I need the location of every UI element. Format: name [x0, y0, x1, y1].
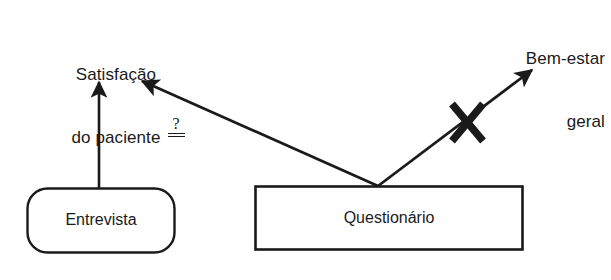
question-mark-glyph: ?	[163, 116, 189, 131]
outcome-label-satisfacao-line1: Satisfação	[46, 64, 186, 85]
node-label-entrevista[interactable]: Entrevista	[27, 210, 175, 230]
outcome-label-bem-estar-line2: geral	[455, 111, 605, 132]
path-diagram: Satisfação do paciente Bem-estar geral E…	[0, 0, 611, 280]
node-label-questionario[interactable]: Questionário	[255, 208, 523, 228]
outcome-label-bem-estar-line1: Bem-estar	[455, 48, 605, 69]
equivalence-question-annotation: ?	[163, 116, 189, 137]
outcome-label-bem-estar: Bem-estar geral	[455, 6, 605, 174]
outcome-label-satisfacao: Satisfação do paciente	[46, 22, 186, 190]
double-rule-icon	[168, 133, 185, 137]
